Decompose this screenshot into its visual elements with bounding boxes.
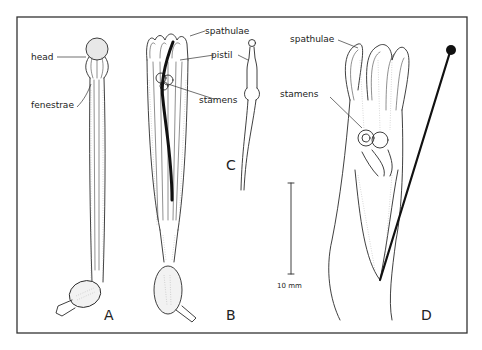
- scale-bar: [288, 183, 294, 274]
- label-head: head: [31, 52, 53, 62]
- panel-label-d: D: [421, 307, 432, 323]
- panel-d-drawing: [329, 44, 456, 320]
- panel-b-drawing: [147, 34, 196, 322]
- panel-label-a: A: [104, 307, 114, 323]
- label-fenestrae: fenestrae: [31, 100, 74, 110]
- botanical-figure: head fenestrae spathulae pistil stamens …: [0, 0, 482, 350]
- panel-c-drawing: [241, 40, 260, 191]
- label-stamens-d: stamens: [280, 89, 319, 99]
- panel-label-c: C: [226, 157, 236, 173]
- scale-bar-label: 10 mm: [277, 282, 302, 290]
- label-spathulae-d: spathulae: [290, 34, 335, 44]
- label-stamens-b: stamens: [199, 95, 238, 105]
- panel-label-b: B: [226, 307, 236, 323]
- panel-a-drawing: [56, 38, 108, 316]
- label-spathulae-b: spathulae: [205, 26, 250, 36]
- label-pistil: pistil: [211, 50, 232, 60]
